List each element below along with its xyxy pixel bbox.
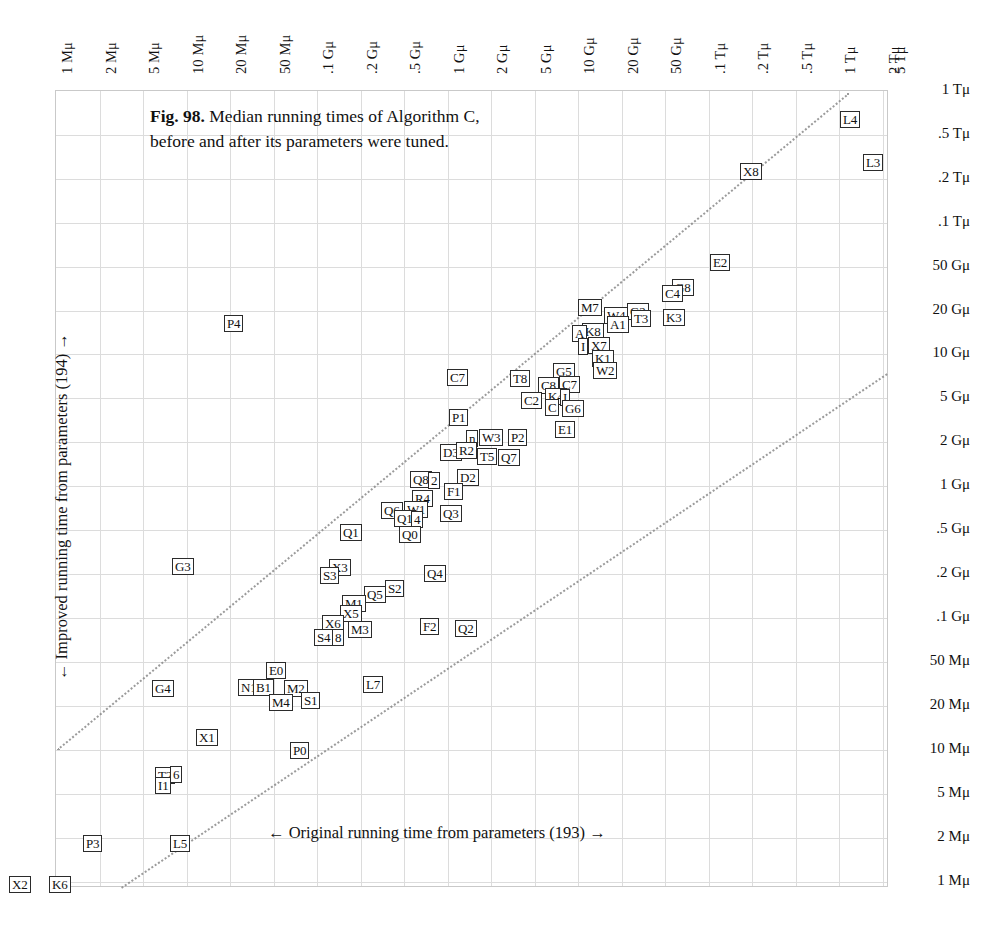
data-point-label: A1 <box>607 316 629 333</box>
x-tick-label: .1 Tμ <box>713 43 728 74</box>
gridline-horizontal <box>56 223 887 224</box>
x-tick-label: .2 Gμ <box>365 41 380 74</box>
gridline-vertical <box>317 91 318 886</box>
x-tick-label: .5 Tμ <box>800 43 815 74</box>
y-tick-label: 1 Tμ <box>898 82 970 97</box>
data-point-label: 6 <box>170 766 182 783</box>
data-point-label: T8 <box>510 370 530 387</box>
gridline-horizontal <box>56 662 887 663</box>
gridline-vertical <box>274 91 275 886</box>
x-tick-label: 1 Tμ <box>843 46 858 74</box>
x-tick-label: 50 Gμ <box>669 37 684 74</box>
x-tick-label: 10 Mμ <box>191 35 206 74</box>
x-tick-label: 5 Gμ <box>539 44 554 74</box>
data-point-label: L3 <box>863 154 883 171</box>
data-point-label: C <box>545 399 559 416</box>
y-tick-label: .2 Tμ <box>898 170 970 185</box>
x-tick-label: 20 Gμ <box>626 37 641 74</box>
gridline-vertical <box>578 91 579 886</box>
data-point-label: P0 <box>290 742 309 759</box>
y-axis-title: ← Improved running time from parameters … <box>52 333 72 680</box>
data-point-label: F2 <box>420 618 439 635</box>
gridline-horizontal <box>56 267 887 268</box>
gridline-vertical <box>230 91 231 886</box>
gridline-vertical <box>143 91 144 886</box>
data-point-label: L4 <box>840 111 860 128</box>
data-point-label: C4 <box>662 285 683 302</box>
data-point-label: W2 <box>593 362 617 379</box>
data-point-label: C2 <box>521 392 542 409</box>
data-point-label: Q3 <box>440 505 462 522</box>
gridline-vertical <box>839 91 840 886</box>
y-tick-label: 10 Gμ <box>898 345 970 360</box>
x-tick-label: 50 Mμ <box>278 35 293 74</box>
data-point-label: E0 <box>266 662 286 679</box>
data-point-label: G6 <box>562 400 584 417</box>
y-tick-label: 5 Mμ <box>898 785 970 800</box>
data-point-label: Q1 <box>340 524 362 541</box>
data-point-label: K6 <box>49 876 71 893</box>
gridline-vertical <box>883 91 884 886</box>
gridline-horizontal <box>56 618 887 619</box>
gridline-horizontal <box>56 311 887 312</box>
y-tick-label: 2 Mμ <box>898 829 970 844</box>
x-tick-label: 20 Mμ <box>234 35 249 74</box>
x-tick-label: 2 Gμ <box>495 44 510 74</box>
gridline-vertical <box>404 91 405 886</box>
data-point-label: Q4 <box>424 565 446 582</box>
data-point-label: K3 <box>663 309 685 326</box>
data-point-label: 8 <box>332 629 344 646</box>
data-point-label: I1 <box>155 777 171 794</box>
data-point-label: G3 <box>172 558 194 575</box>
gridline-vertical <box>535 91 536 886</box>
data-point-label: Q2 <box>455 620 477 637</box>
x-tick-label: 5 Mμ <box>147 42 162 74</box>
data-point-label: M7 <box>578 299 602 316</box>
data-point-label: P2 <box>508 429 527 446</box>
y-tick-label: .1 Gμ <box>898 609 970 624</box>
data-point-label: S1 <box>301 692 320 709</box>
gridline-horizontal <box>56 882 887 883</box>
data-point-label: G4 <box>152 680 174 697</box>
y-tick-label: 10 Mμ <box>898 741 970 756</box>
gridline-vertical <box>665 91 666 886</box>
data-point-label: C7 <box>447 369 468 386</box>
data-point-label: X1 <box>196 729 218 746</box>
data-point-label: S2 <box>385 580 404 597</box>
y-tick-label: 1 Gμ <box>898 477 970 492</box>
x-axis-title: ← Original running time from parameters … <box>268 823 606 843</box>
data-point-label: F1 <box>444 483 463 500</box>
data-point-label: 2 <box>428 472 440 489</box>
data-point-label: P4 <box>224 315 243 332</box>
figure-root: 1 Mμ2 Mμ5 Mμ10 Mμ20 Mμ50 Mμ.1 Gμ.2 Gμ.5 … <box>0 0 1005 934</box>
data-point-label: M4 <box>269 694 293 711</box>
data-point-label: Q0 <box>399 526 421 543</box>
data-point-label: T3 <box>631 310 651 327</box>
gridline-horizontal <box>56 398 887 399</box>
data-point-label: Q5 <box>364 586 386 603</box>
gridline-vertical <box>187 91 188 886</box>
data-point-label: R2 <box>456 442 477 459</box>
data-point-label: X8 <box>740 163 762 180</box>
data-point-label: W3 <box>479 429 503 446</box>
gridline-horizontal <box>56 179 887 180</box>
data-point-label: T5 <box>477 448 497 465</box>
y-tick-label: 20 Gμ <box>898 302 970 317</box>
y-tick-label: 50 Mμ <box>898 653 970 668</box>
data-point-label: P3 <box>83 835 102 852</box>
gridline-vertical <box>752 91 753 886</box>
y-tick-label: .5 Gμ <box>898 521 970 536</box>
gridline-horizontal <box>56 706 887 707</box>
y-tick-label: .5 Tμ <box>898 126 970 141</box>
caption-figure-number: Fig. 98. <box>150 106 205 126</box>
x-tick-label: .1 Gμ <box>321 41 336 74</box>
x-tick-label: 2 Mμ <box>104 42 119 74</box>
gridline-horizontal <box>56 530 887 531</box>
gridline-horizontal <box>56 486 887 487</box>
x-tick-label: 5 Tμ <box>893 46 908 74</box>
gridline-vertical <box>622 91 623 886</box>
gridline-vertical <box>796 91 797 886</box>
x-tick-label: 1 Gμ <box>452 44 467 74</box>
data-point-label: L5 <box>170 835 190 852</box>
gridline-vertical <box>100 91 101 886</box>
